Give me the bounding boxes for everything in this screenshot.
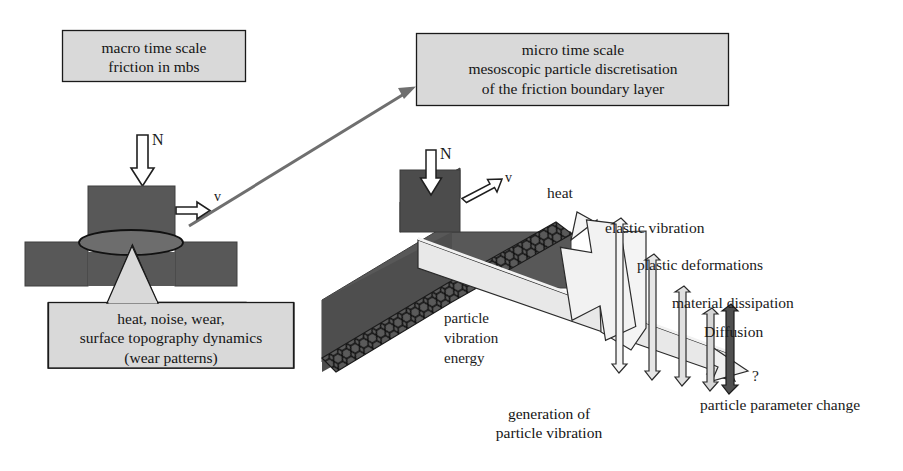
- particle-vibration-energy-label: particle vibration energy: [444, 309, 498, 368]
- label-diffusion: Diffusion: [704, 323, 763, 341]
- label-elastic-vibration: elastic vibration: [605, 219, 704, 237]
- heat-label: heat: [547, 184, 573, 202]
- macro-to-micro-arrow: [189, 87, 416, 227]
- label-unknown-question: ?: [752, 367, 759, 385]
- figure-canvas: macro time scale friction in mbs micro t…: [0, 0, 903, 471]
- box-generation-label: generation of particle vibration: [456, 404, 642, 443]
- box-outcomes-label: heat, noise, wear, surface topography dy…: [49, 309, 293, 367]
- label-plastic-deformations: plastic deformations: [637, 256, 763, 274]
- macro-normal-force-arrow: [131, 135, 154, 186]
- macro-substrate-left: [25, 242, 88, 286]
- box-micro-time-scale-label: micro time scale mesoscopic particle dis…: [417, 40, 729, 98]
- micro-velocity-arrow: [462, 179, 502, 203]
- micro-velocity-label: v: [505, 170, 512, 187]
- label-material-dissipation: material dissipation: [672, 294, 794, 312]
- micro-normal-force-label: N: [440, 145, 452, 164]
- box-macro-time-scale-label: macro time scale friction in mbs: [62, 38, 246, 77]
- macro-substrate-right: [175, 242, 237, 286]
- label-particle-parameter-change: particle parameter change: [700, 396, 860, 414]
- macro-velocity-label: v: [214, 189, 221, 206]
- macro-normal-force-label: N: [152, 131, 164, 150]
